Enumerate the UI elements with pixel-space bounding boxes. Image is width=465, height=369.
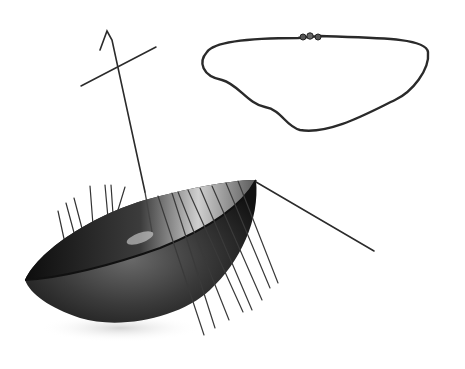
chain-necklace [202,33,428,131]
photograph [0,0,465,369]
clasp-bead [315,34,321,40]
steering-oar [256,182,374,251]
mast [81,31,156,192]
clasp-bead [300,34,306,40]
yard [81,47,156,86]
clasp-bead [307,33,313,39]
